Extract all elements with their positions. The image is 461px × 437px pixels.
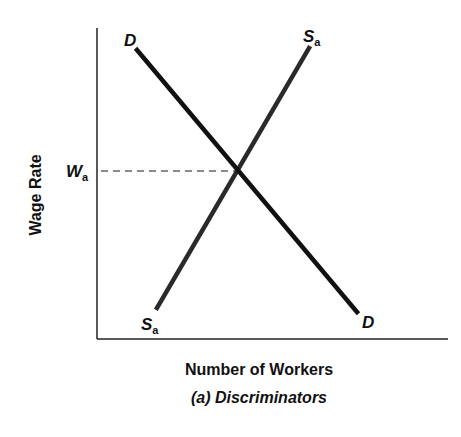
demand-label-bottom: D [362, 313, 374, 332]
demand-label-top: D [124, 31, 136, 50]
y-axis-title: Wage Rate [27, 154, 44, 235]
chart-canvas: D D Sa Sa Wa Wage Rate Number of Workers… [0, 0, 461, 437]
supply-curve-sa [157, 48, 309, 308]
demand-curve-d [137, 50, 357, 312]
x-axis-title: Number of Workers [185, 361, 333, 378]
supply-label-top: Sa [303, 27, 321, 48]
wage-label: Wa [66, 162, 89, 183]
supply-label-bottom: Sa [141, 315, 159, 336]
chart-caption: (a) Discriminators [191, 389, 327, 406]
